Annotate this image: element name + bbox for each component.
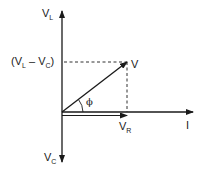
phasor-diagram [0,0,202,173]
vl-label: VL [42,8,53,19]
vr-label: VR [119,121,131,132]
vc-label: VC [44,152,56,163]
phi-label: ϕ [86,97,93,107]
vl-minus-vc-label: (VL – VC) [11,56,54,67]
v-vector [62,62,127,112]
v-label: V [131,59,138,70]
i-label: I [186,120,189,131]
phi-arc [79,100,84,113]
